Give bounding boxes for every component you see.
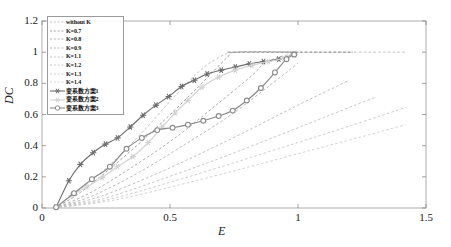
- legend-label: without K: [66, 18, 91, 27]
- legend-label: K=0.9: [66, 44, 81, 53]
- chart-figure: DC E 00.20.40.60.811.200.511.5 without K…: [0, 0, 451, 247]
- data-point-marker: [72, 191, 77, 196]
- data-point-marker: [54, 205, 59, 210]
- legend-item-1[interactable]: without K: [49, 18, 121, 27]
- data-point-marker: [155, 128, 160, 133]
- legend-item-5[interactable]: K=1.1: [49, 52, 121, 61]
- legend-item-3[interactable]: K=0.8: [49, 35, 121, 44]
- legend-swatch: [49, 70, 66, 78]
- data-point-marker: [258, 86, 263, 91]
- legend-label: K=1.2: [66, 61, 81, 70]
- y-tick-label: 1: [0, 45, 38, 57]
- data-point-marker: [186, 122, 191, 127]
- data-point-marker: [266, 59, 271, 64]
- data-point-marker: [124, 146, 129, 151]
- y-tick-label: 0.6: [0, 108, 38, 120]
- legend-label: 变系数方案1: [66, 87, 98, 96]
- legend-swatch: [49, 27, 66, 35]
- legend-item-9[interactable]: 变系数方案1: [49, 87, 121, 96]
- x-tick-label: 1.5: [412, 211, 440, 223]
- data-point-marker: [90, 177, 95, 182]
- data-point-marker: [233, 68, 238, 73]
- data-point-marker: [107, 164, 112, 169]
- legend-label: K=0.8: [66, 35, 81, 44]
- x-axis-title: E: [218, 224, 225, 239]
- data-point-marker: [233, 65, 238, 70]
- legend-swatch: [49, 35, 66, 43]
- data-point-marker: [201, 118, 206, 123]
- data-point-marker: [192, 78, 197, 83]
- legend-item-6[interactable]: K=1.2: [49, 61, 121, 70]
- legend-swatch: [49, 78, 66, 86]
- legend-label: K=1.1: [66, 52, 81, 61]
- series-K=1.3: [55, 107, 406, 208]
- legend-item-11[interactable]: 变系数方案3: [49, 104, 121, 113]
- data-point-marker: [273, 70, 278, 75]
- legend-label: K=0.7: [66, 27, 81, 36]
- legend-label: K=1.4: [66, 78, 81, 87]
- x-tick-label: 0.5: [156, 211, 184, 223]
- legend-swatch: [49, 53, 66, 61]
- legend-label: 变系数方案3: [66, 104, 98, 113]
- y-tick-label: 0.2: [0, 170, 38, 182]
- data-point-marker: [244, 98, 249, 103]
- legend-label: 变系数方案2: [66, 95, 98, 104]
- y-tick-label: 0.8: [0, 76, 38, 88]
- legend-swatch: [49, 104, 66, 112]
- legend-label: K=1.3: [66, 70, 81, 79]
- data-point-marker: [139, 135, 144, 140]
- y-axis-title: DC: [2, 87, 17, 104]
- legend-swatch: [49, 18, 66, 26]
- legend-item-2[interactable]: K=0.7: [49, 27, 121, 36]
- legend-swatch: [49, 96, 66, 104]
- data-point-marker: [216, 114, 221, 119]
- data-point-marker: [219, 68, 224, 73]
- y-tick-label: 0.4: [0, 139, 38, 151]
- legend-swatch: [49, 87, 66, 95]
- data-point-marker: [66, 178, 71, 183]
- series-line: [55, 107, 406, 208]
- legend-swatch: [49, 61, 66, 69]
- legend-swatch: [49, 44, 66, 52]
- legend-item-10[interactable]: 变系数方案2: [49, 95, 121, 104]
- legend-item-7[interactable]: K=1.3: [49, 70, 121, 79]
- legend-item-8[interactable]: K=1.4: [49, 78, 121, 87]
- x-tick-label: 0: [28, 211, 56, 223]
- y-tick-label: 1.2: [0, 14, 38, 26]
- data-point-marker: [284, 57, 289, 62]
- legend-item-4[interactable]: K=0.9: [49, 44, 121, 53]
- data-point-marker: [170, 125, 175, 130]
- legend-box: without KK=0.7K=0.8K=0.9K=1.1K=1.2K=1.3K…: [47, 16, 124, 115]
- data-point-marker: [292, 52, 297, 57]
- x-tick-label: 1: [284, 211, 312, 223]
- data-point-marker: [230, 108, 235, 113]
